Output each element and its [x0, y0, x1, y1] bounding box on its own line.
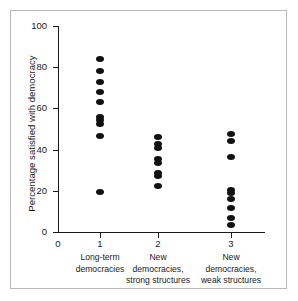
figure-canvas: 020406080100 0123 Percentage satisfied w…: [0, 0, 298, 301]
x-tick-label: 0: [43, 239, 73, 249]
data-point: [154, 160, 162, 166]
y-tick-mark: [53, 108, 58, 109]
y-tick-label: 40: [36, 145, 47, 155]
data-point: [227, 190, 235, 196]
x-tick-label: 2: [143, 239, 173, 249]
y-tick-mark: [53, 150, 58, 151]
data-point: [227, 196, 235, 202]
data-point: [227, 222, 235, 228]
scatter-plot-area: 020406080100 0123 Percentage satisfied w…: [0, 0, 298, 301]
x-tick-label: 3: [216, 239, 246, 249]
x-axis-category-label-line: democracies,: [181, 264, 281, 276]
y-tick-mark: [53, 67, 58, 68]
data-point: [96, 99, 104, 105]
data-point: [227, 215, 235, 221]
data-point: [227, 205, 235, 211]
y-tick-label: 80: [36, 62, 47, 72]
data-point: [96, 89, 104, 95]
data-point: [96, 68, 104, 74]
x-axis-category-label-line: weak structures: [181, 275, 281, 287]
data-point: [96, 121, 104, 127]
y-tick-mark: [53, 191, 58, 192]
y-tick-mark: [53, 232, 58, 233]
y-tick-label: 0: [42, 227, 47, 237]
data-point: [154, 134, 162, 140]
data-point: [96, 79, 104, 85]
data-point: [154, 145, 162, 151]
x-axis-category-label: Newdemocracies,weak structures: [181, 252, 281, 287]
data-point: [227, 154, 235, 160]
data-point: [154, 183, 162, 189]
y-axis-title: Percentage satisfied with democracy: [26, 29, 37, 239]
data-point: [227, 131, 235, 137]
data-point: [96, 133, 104, 139]
data-point: [96, 189, 104, 195]
data-point: [154, 173, 162, 179]
y-tick-label: 20: [36, 186, 47, 196]
y-tick-label: 60: [36, 103, 47, 113]
data-point: [227, 138, 235, 144]
x-axis-line: [58, 232, 265, 233]
x-tick-label: 1: [85, 239, 115, 249]
y-axis-line: [58, 26, 59, 233]
x-axis-category-label-line: New: [181, 252, 281, 264]
data-point: [96, 56, 104, 62]
y-tick-mark: [53, 26, 58, 27]
